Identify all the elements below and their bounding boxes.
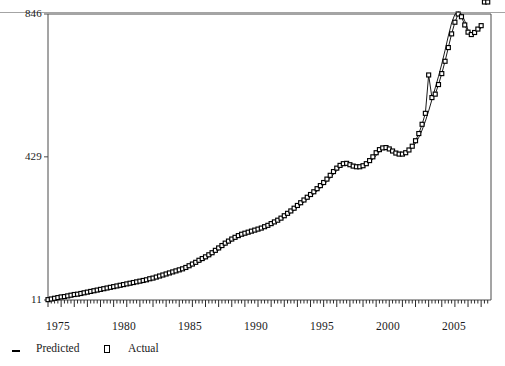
axis-ticks	[48, 300, 488, 307]
x-axis-label-1: 1980	[94, 320, 154, 332]
x-axis-label-6: 2005	[424, 320, 484, 332]
y-axis-label-top: 846	[0, 7, 42, 19]
axis-frame	[44, 14, 491, 300]
y-axis-label-mid: 429	[0, 150, 42, 162]
dash-marker-icon	[12, 350, 20, 352]
series-actual	[46, 0, 490, 302]
legend-label-actual: Actual	[128, 342, 159, 354]
chart-legend: Predicted Actual	[0, 340, 505, 360]
x-axis-label-2: 1985	[160, 320, 220, 332]
square-marker-icon	[104, 345, 110, 353]
top-rule	[0, 12, 505, 13]
legend-label-predicted: Predicted	[36, 342, 79, 354]
y-axis-label-bottom: 11	[0, 293, 42, 305]
chart-container: 846 429 11 1975 1980 1985 1990 1995 2000…	[0, 0, 505, 366]
x-axis-label-0: 1975	[28, 320, 88, 332]
x-axis-label-3: 1990	[226, 320, 286, 332]
plot-area	[0, 0, 505, 366]
x-axis-label-5: 2000	[358, 320, 418, 332]
series-predicted	[48, 12, 481, 300]
x-axis-label-4: 1995	[292, 320, 352, 332]
